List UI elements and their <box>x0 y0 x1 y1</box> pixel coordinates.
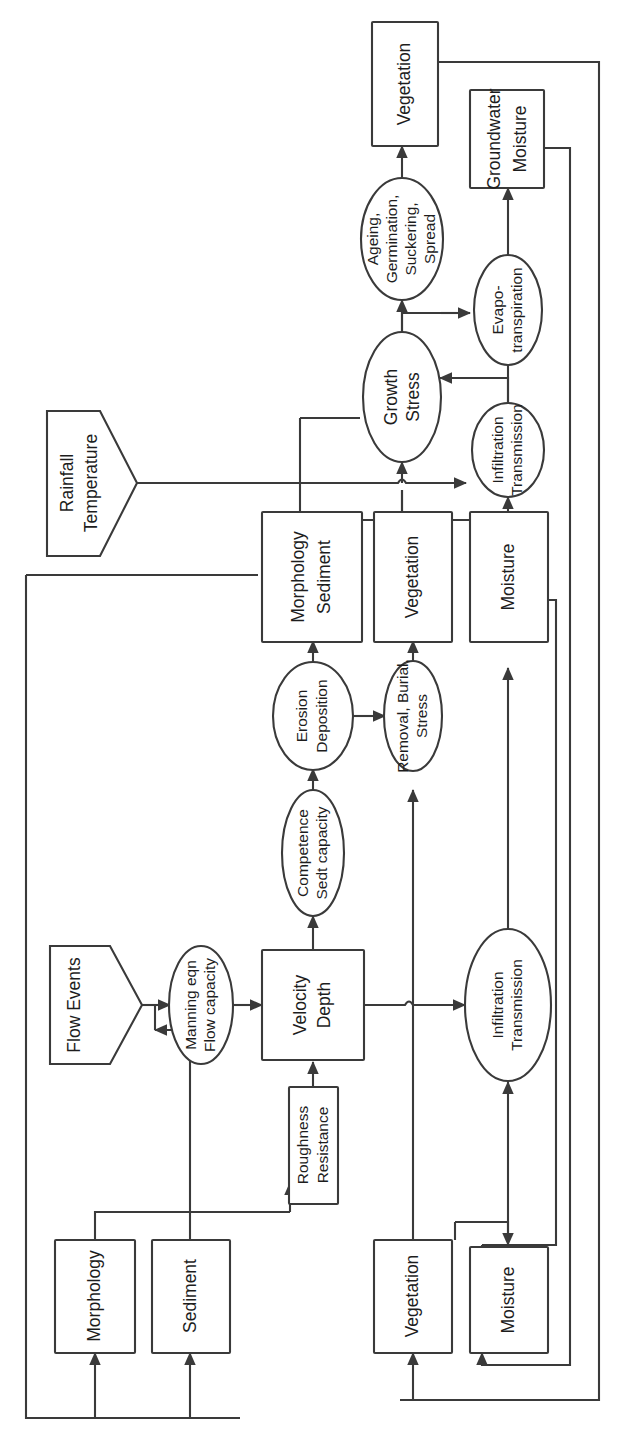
node-ageing-label-line4: Spread <box>421 214 438 264</box>
node-velocity-depth-label-line2: Depth <box>314 982 334 1029</box>
node-rainfall-temperature-label-line2: Temperature <box>81 434 101 532</box>
node-growth-stress-label-line2: Stress <box>403 372 423 422</box>
node-ageing-label-line1: Ageing, <box>364 213 381 266</box>
node-roughness-label-line2: Resistance <box>314 1107 331 1184</box>
edge-rainfall-bus <box>137 480 466 484</box>
node-rainfall-temperature-label-line1: Rainfall <box>57 454 77 512</box>
node-infiltration-lower-label-line2: Transmission <box>508 959 525 1051</box>
node-removal[interactable]: Removal, Burial, Stress <box>384 659 442 773</box>
edge-growth-branch-up <box>402 313 441 332</box>
node-ageing-label-line2: Germination, <box>383 195 400 284</box>
node-velocity-depth[interactable]: Velocity Depth <box>262 950 364 1060</box>
node-moisture-out-label: Moisture <box>498 543 518 610</box>
node-roughness[interactable]: Roughness Resistance <box>289 1087 338 1204</box>
node-vegetation-out[interactable]: Vegetation <box>374 512 452 642</box>
node-morphology-state-label: Morphology <box>84 1250 104 1342</box>
diagram-canvas: Morphology Sediment Vegetation Moisture … <box>0 0 625 1443</box>
edge-moisture-state-inflow <box>455 1222 508 1245</box>
node-vegetation-state[interactable]: Vegetation <box>374 1240 452 1353</box>
node-vegetation-out-label: Vegetation <box>402 536 422 619</box>
node-infiltration-lower[interactable]: Infiltration Transmission <box>465 929 551 1081</box>
node-infiltration-upper-label-line1: Infiltration <box>489 416 506 483</box>
node-growth-stress-label-line1: Growth <box>381 369 401 425</box>
edge-infiltration-upper-to-growth <box>440 378 508 404</box>
node-velocity-depth-label-line1: Velocity <box>290 975 310 1036</box>
node-infiltration-upper-label-line2: Transmission <box>508 404 525 496</box>
node-manning-label-line1: Manning eqn <box>182 960 199 1050</box>
node-erosion-label-line1: Erosion <box>293 690 310 743</box>
node-morph-sed-out-label-line2: Sediment <box>314 540 334 614</box>
node-evapotranspiration-label-line1: Evapo- <box>489 285 506 334</box>
edge-moistureout-feedback <box>482 600 556 1245</box>
node-groundwater-moisture[interactable]: Groundwater Moisture <box>470 88 544 189</box>
node-roughness-label-line1: Roughness <box>294 1106 311 1185</box>
node-competence-label-line2: Sedt capacity <box>313 806 330 899</box>
node-rainfall-temperature[interactable]: Rainfall Temperature <box>47 411 137 556</box>
node-erosion[interactable]: Erosion Deposition <box>273 662 353 770</box>
node-ageing[interactable]: Ageing, Germination, Suckering, Spread <box>361 178 443 300</box>
node-manning-label-line2: Flow capacity <box>201 958 218 1052</box>
edge-morphology-up <box>95 1212 190 1240</box>
edge-groundwater-to-moisture-state <box>482 1353 508 1365</box>
edge-velocity-to-infiltration-lower <box>364 1002 465 1006</box>
node-vegetation-final-label: Vegetation <box>394 43 414 126</box>
node-competence-label-line1: Competence <box>294 809 311 897</box>
node-moisture-state-label: Moisture <box>498 1266 518 1333</box>
node-moisture-out[interactable]: Moisture <box>470 512 548 642</box>
node-vegetation-state-label: Vegetation <box>402 1255 422 1338</box>
node-groundwater-moisture-label-line2: Moisture <box>510 105 530 172</box>
node-infiltration-lower-label-line1: Infiltration <box>489 971 506 1038</box>
flowchart-svg: Morphology Sediment Vegetation Moisture … <box>0 0 625 1443</box>
node-ageing-label-line3: Suckering, <box>402 202 419 275</box>
node-vegetation-final[interactable]: Vegetation <box>372 22 438 146</box>
node-erosion-label-line2: Deposition <box>313 679 330 752</box>
node-morph-sed-out[interactable]: Morphology Sediment <box>262 512 362 642</box>
node-morphology-state[interactable]: Morphology <box>55 1240 135 1353</box>
node-evapotranspiration[interactable]: Evapo- transpiration <box>474 255 542 365</box>
node-sediment-state[interactable]: Sediment <box>152 1240 230 1353</box>
node-evapotranspiration-label-line2: transpiration <box>508 267 525 352</box>
node-removal-label-line1: Removal, Burial, <box>394 659 411 773</box>
node-growth-stress[interactable]: Growth Stress <box>363 332 441 462</box>
node-flow-events[interactable]: Flow Events <box>50 946 142 1064</box>
node-flow-events-label-line1: Flow Events <box>64 957 84 1053</box>
node-infiltration-upper[interactable]: Infiltration Transmission <box>472 403 544 497</box>
node-sediment-state-label: Sediment <box>180 1259 200 1333</box>
node-competence[interactable]: Competence Sedt capacity <box>282 790 344 916</box>
node-manning[interactable]: Manning eqn Flow capacity <box>169 946 233 1064</box>
node-moisture-state[interactable]: Moisture <box>470 1247 548 1353</box>
node-morph-sed-out-label-line1: Morphology <box>288 531 308 623</box>
node-groundwater-moisture-label-line1: Groundwater <box>484 88 504 189</box>
node-removal-label-line2: Stress <box>413 694 430 738</box>
